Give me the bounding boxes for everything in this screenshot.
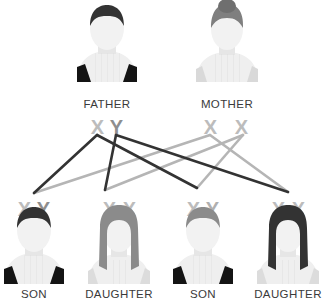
son-2-label: SON xyxy=(190,288,216,300)
daughter-2-label: DAUGHTER xyxy=(254,288,322,300)
mother-label: MOTHER xyxy=(201,98,253,110)
son-1-label: SON xyxy=(21,288,47,300)
daughter-1-label: DAUGHTER xyxy=(85,288,153,300)
inheritance-diagram: FATHER X Y MOTHER X X xyxy=(0,0,335,306)
father-label: FATHER xyxy=(84,98,131,110)
